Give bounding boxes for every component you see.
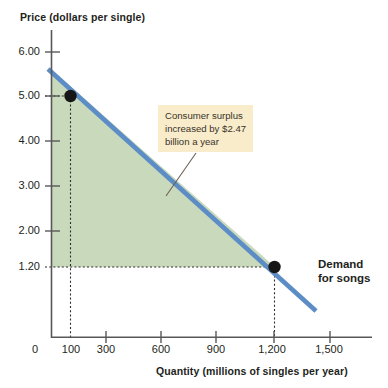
- y-tick-label-120: 1.20: [6, 261, 40, 273]
- consumer-surplus-region: [52, 70, 275, 267]
- x-tick-label-600: 600: [141, 344, 181, 356]
- chart-canvas: [0, 0, 388, 388]
- consumer-surplus-callout: Consumer surplus increased by $2.47 bill…: [158, 105, 253, 152]
- x-tick-label-0: 0: [15, 344, 55, 356]
- x-tick-label-1200: 1,200: [252, 344, 292, 356]
- y-tick-label-500: 5.00: [6, 90, 40, 102]
- y-axis-title: Price (dollars per single): [20, 12, 145, 23]
- economics-demand-chart: Price (dollars per single) Quantity (mil…: [0, 0, 388, 388]
- point-marker-100-500[interactable]: [64, 90, 76, 102]
- y-tick-label-400: 4.00: [6, 135, 40, 147]
- consumer-surplus-callout-text: Consumer surplus increased by $2.47 bill…: [165, 110, 247, 148]
- x-tick-label-1500: 1,500: [309, 344, 349, 356]
- y-tick-label-200: 2.00: [6, 225, 40, 237]
- y-tick-label-600: 6.00: [6, 46, 40, 58]
- demand-series-label-line1: Demand: [318, 258, 370, 272]
- x-tick-label-300: 300: [86, 344, 126, 356]
- demand-series-label: Demand for songs: [318, 258, 370, 285]
- x-tick-label-900: 900: [196, 344, 236, 356]
- x-tick-label-100: 100: [51, 344, 91, 356]
- point-marker-1200-120[interactable]: [268, 261, 280, 273]
- x-axis-title: Quantity (millions of singles per year): [156, 366, 348, 377]
- y-tick-label-300: 3.00: [6, 180, 40, 192]
- demand-series-label-line2: for songs: [318, 272, 370, 286]
